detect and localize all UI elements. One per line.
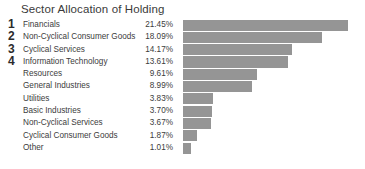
sector-bar <box>183 93 213 104</box>
sector-percentage-value: 13.61% <box>110 56 173 68</box>
bar-track <box>183 106 358 117</box>
bar-track <box>183 81 358 92</box>
sector-percentage-value: 18.09% <box>110 31 173 43</box>
sector-allocation-row: General Industries8.99% <box>0 80 365 92</box>
sector-allocation-row: 2Non-Cyclical Consumer Goods18.09% <box>0 31 365 43</box>
bar-track <box>183 118 358 129</box>
sector-bar <box>183 32 322 43</box>
sector-allocation-row: Basic Industries3.70% <box>0 105 365 117</box>
sector-bar <box>183 69 257 80</box>
sector-bar <box>183 143 191 154</box>
sector-allocation-row: Resources9.61% <box>0 68 365 80</box>
sector-bar <box>183 44 292 55</box>
sector-percentage-value: 3.70% <box>110 105 173 117</box>
sector-allocation-row-list: 1Financials21.45%2Non-Cyclical Consumer … <box>0 19 365 154</box>
bar-track <box>183 56 358 67</box>
page-title: Sector Allocation of Holding <box>21 3 164 15</box>
sector-allocation-row: 3Cyclical Services14.17% <box>0 44 365 56</box>
sector-percentage-value: 3.83% <box>110 93 173 105</box>
sector-bar <box>183 118 211 129</box>
sector-label: Financials <box>23 19 60 31</box>
sector-allocation-row: Utilities3.83% <box>0 93 365 105</box>
sector-label: Basic Industries <box>23 105 81 117</box>
bar-track <box>183 20 358 31</box>
bar-track <box>183 143 358 154</box>
sector-bar <box>183 130 197 141</box>
sector-label: General Industries <box>23 80 90 92</box>
sector-label: Utilities <box>23 93 49 105</box>
bar-track <box>183 32 358 43</box>
sector-percentage-value: 9.61% <box>110 68 173 80</box>
sector-allocation-chart-panel: Sector Allocation of Holding 1Financials… <box>0 0 365 169</box>
sector-bar <box>183 106 212 117</box>
bar-track <box>183 44 358 55</box>
sector-percentage-value: 1.87% <box>110 130 173 142</box>
sector-label: Information Technology <box>23 56 108 68</box>
bar-track <box>183 69 358 80</box>
sector-label: Cyclical Consumer Goods <box>23 130 118 142</box>
rank-number: 4 <box>8 55 20 67</box>
sector-bar <box>183 20 348 31</box>
sector-label: Other <box>23 142 43 154</box>
sector-percentage-value: 1.01% <box>110 142 173 154</box>
sector-allocation-row: Non-Cyclical Services3.67% <box>0 117 365 129</box>
sector-allocation-row: 4Information Technology13.61% <box>0 56 365 68</box>
sector-percentage-value: 8.99% <box>110 80 173 92</box>
sector-allocation-row: Other1.01% <box>0 142 365 154</box>
sector-percentage-value: 21.45% <box>110 19 173 31</box>
sector-percentage-value: 14.17% <box>110 44 173 56</box>
bar-track <box>183 130 358 141</box>
sector-allocation-row: 1Financials21.45% <box>0 19 365 31</box>
sector-label: Non-Cyclical Services <box>23 117 103 129</box>
sector-label: Resources <box>23 68 62 80</box>
sector-bar <box>183 81 252 92</box>
sector-allocation-row: Cyclical Consumer Goods1.87% <box>0 130 365 142</box>
sector-bar <box>183 56 288 67</box>
rank-number: 2 <box>8 30 20 42</box>
bar-track <box>183 93 358 104</box>
sector-percentage-value: 3.67% <box>110 117 173 129</box>
sector-label: Cyclical Services <box>23 44 85 56</box>
